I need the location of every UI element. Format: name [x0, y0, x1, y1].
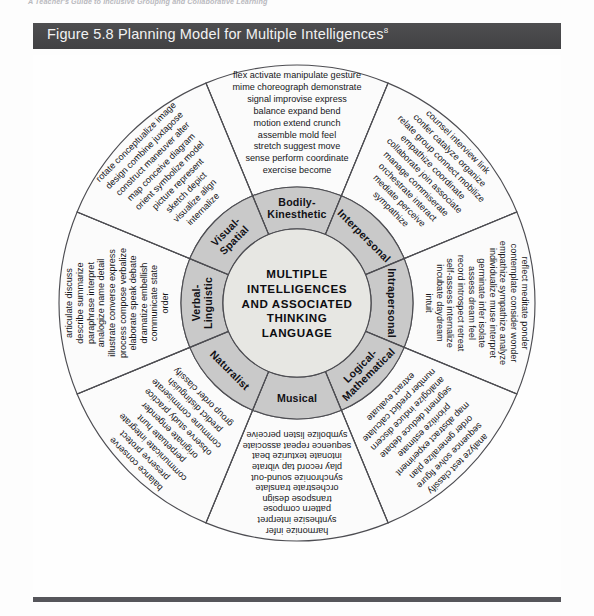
- word-row: assess dream feel: [467, 266, 477, 340]
- word-row: balance expand bend: [254, 106, 341, 116]
- hub-text-line: LANGUAGE: [262, 326, 333, 339]
- word-row: pattern compose: [263, 504, 331, 514]
- hub-text-line: AND ASSOCIATED: [242, 297, 353, 310]
- bottom-rule: [33, 597, 561, 602]
- word-row: orchestrate translate: [256, 483, 339, 493]
- word-row: sequence repeat associate: [243, 441, 352, 451]
- segment-title-line: Linguistic: [202, 277, 214, 329]
- word-row: dramatize embellish: [139, 263, 149, 344]
- page-canvas: A Teacher's Guide to Inclusive Grouping …: [0, 0, 594, 616]
- word-row: paraphrase interpret: [86, 262, 96, 344]
- hub-text-line: MULTIPLE: [266, 267, 328, 280]
- word-row: motion extend crunch: [254, 118, 341, 128]
- figure-caption-bar: Figure 5.8 Planning Model for Multiple I…: [33, 23, 561, 49]
- word-row: individualize muse interpret: [488, 248, 498, 359]
- figure-caption-text: Figure 5.8 Planning Model for Multiple I…: [47, 26, 388, 42]
- word-row: reflect meditate ponder: [520, 256, 530, 349]
- word-row: record introspect retreat: [456, 255, 466, 352]
- word-row: elaborate speak debate: [128, 255, 138, 350]
- word-row: analogize name detail: [96, 259, 106, 347]
- word-row: sense perform coordinate: [245, 153, 348, 163]
- word-row: exercise become: [263, 165, 332, 175]
- hub-text-line: THINKING: [267, 311, 327, 324]
- word-row: communicate state: [149, 265, 159, 341]
- running-head: A Teacher's Guide to Inclusive Grouping …: [28, 0, 267, 6]
- word-row: synthesize interpret: [257, 515, 336, 525]
- word-row: contemplate consider wonder: [509, 244, 519, 363]
- word-row: empathize sympathize analyze: [498, 241, 508, 365]
- wheel-svg: Bodily-KinestheticInterpersonalIntrapers…: [33, 55, 561, 590]
- multiple-intelligences-wheel: Bodily-KinestheticInterpersonalIntrapers…: [33, 55, 561, 590]
- segment-title-line: Musical: [277, 392, 317, 404]
- word-row: signal improvise express: [247, 94, 347, 104]
- word-row: illustrate converse express: [107, 249, 117, 357]
- word-row: transpose design: [262, 494, 331, 504]
- segment-title-line: Bodily-: [278, 196, 316, 208]
- word-row: play record tap vibrate: [252, 462, 342, 472]
- segment-title-line: Verbal-: [190, 284, 202, 321]
- word-row: assemble mold feel: [258, 130, 336, 140]
- word-row: harmonize infer: [266, 526, 329, 536]
- word-row: incubate daydream: [435, 264, 445, 341]
- word-row: order: [160, 292, 170, 313]
- figure-caption-label: Figure 5.8 Planning Model for Multiple I…: [47, 26, 384, 42]
- word-row: process compose verbalize: [117, 248, 127, 358]
- word-row: synchronize sound-out: [251, 473, 343, 483]
- word-row: symbolize listen perceive: [246, 430, 347, 440]
- word-row: flex activate manipulate gesture: [233, 70, 361, 80]
- word-row: stretch suggest move: [254, 141, 340, 151]
- hub-text-line: INTELLIGENCES: [247, 282, 347, 295]
- word-row: intuit: [424, 293, 434, 313]
- segment-title-musical[interactable]: Musical: [277, 392, 317, 404]
- segment-title-intrapersonal[interactable]: Intrapersonal: [386, 268, 398, 338]
- segment-words-musical: harmonize infersynthesize interpretpatte…: [243, 430, 352, 536]
- word-row: describe summarize: [75, 262, 85, 343]
- word-row: intonate texturize beat: [252, 451, 342, 461]
- wheel-hub: MULTIPLEINTELLIGENCESAND ASSOCIATEDTHINK…: [223, 229, 371, 377]
- figure-caption-superscript: 8: [384, 26, 389, 35]
- segment-title-line: Kinesthetic: [267, 208, 326, 220]
- word-row: mime choreograph demonstrate: [233, 82, 362, 92]
- segment-title-verbal-linguistic[interactable]: Verbal-Linguistic: [190, 277, 214, 329]
- word-row: germinate infer isolate: [477, 258, 487, 347]
- segment-title-line: Intrapersonal: [386, 268, 398, 338]
- word-row: articulate discuss: [64, 268, 74, 338]
- word-row: self-assess internalize: [445, 258, 455, 347]
